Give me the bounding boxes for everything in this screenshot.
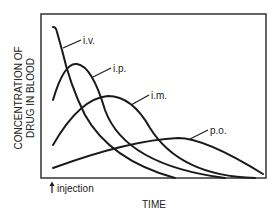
x-axis-label: TIME — [142, 199, 166, 210]
curve-ip — [53, 64, 225, 178]
curve-po — [53, 138, 263, 174]
leader-iv — [63, 40, 81, 48]
injection-arrow-icon — [50, 182, 55, 194]
leader-ip — [93, 68, 111, 77]
label-po: p.o. — [210, 125, 227, 136]
curve-iv — [53, 27, 175, 178]
svg-text:CONCENTRATION OF: CONCENTRATION OF — [13, 46, 24, 149]
label-im: i.m. — [151, 90, 167, 101]
curve-im — [53, 96, 255, 178]
label-iv: i.v. — [83, 35, 95, 46]
leader-im — [131, 95, 149, 105]
injection-label: injection — [57, 183, 94, 194]
svg-text:DRUG IN BLOOD: DRUG IN BLOOD — [25, 58, 36, 138]
y-axis-label: CONCENTRATION OF DRUG IN BLOOD — [13, 46, 36, 149]
label-ip: i.p. — [113, 63, 126, 74]
pharmacokinetics-diagram: i.v. i.p. i.m. p.o. CONCENTRATION OF DRU… — [0, 0, 279, 220]
leader-po — [190, 130, 208, 139]
